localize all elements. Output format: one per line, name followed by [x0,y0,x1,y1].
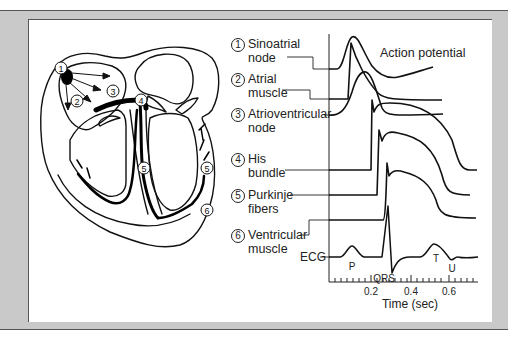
trace-ventricular [329,163,476,220]
number-5-icon: 5 [231,189,245,203]
label-atrial-muscle: 2Atrial muscle [231,73,288,100]
ecg-wave-u: U [448,263,455,274]
label-purkinje-fibers: 5Purkinje fibers [231,189,293,216]
leader-lines [282,57,330,257]
time-axis [329,34,478,282]
label-ventricular-muscle: 6Ventricular muscle [231,229,307,256]
tick-label-0-2: 0.2 [364,286,378,297]
label-atrioventricular-node: 3Atrioventricular node [231,108,331,135]
action-potential-title: Action potential [380,46,465,60]
number-4-icon: 4 [231,153,245,167]
label-his-bundle: 4His bundle [231,153,286,180]
heart-marker-3: 3 [110,87,115,97]
number-1-icon: 1 [231,38,245,52]
heart-marker-2: 2 [74,97,79,107]
number-6-icon: 6 [231,229,245,243]
number-2-icon: 2 [231,73,245,87]
tick-label-0-6: 0.6 [442,286,456,297]
ecg-wave-p: P [349,261,356,272]
action-potential-traces [329,37,477,220]
number-3-icon: 3 [231,108,245,122]
tick-label-0-4: 0.4 [404,286,418,297]
trace-his [329,100,477,170]
heart-marker-5a: 5 [141,164,146,174]
conduction-system [61,69,209,218]
heart-marker-1: 1 [58,64,63,74]
heart-marker-5b: 5 [204,164,209,174]
ecg-wave-qrs: QRS [373,273,395,284]
heart-marker-4: 4 [138,96,143,106]
trace-purkinje [329,130,470,195]
heart-marker-6: 6 [204,206,209,216]
trace-av [329,72,443,115]
label-sinoatrial-node: 1Sinoatrial node [231,38,300,65]
x-axis-label: Time (sec) [382,297,438,311]
ecg-wave-t: T [433,253,439,264]
